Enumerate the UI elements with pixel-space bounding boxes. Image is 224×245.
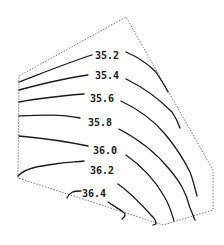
contour-label: 36.2 [90, 165, 114, 176]
domain-boundary [18, 17, 213, 225]
contour-36-4: 36.4 [67, 188, 125, 219]
contour-label: 35.4 [95, 70, 119, 81]
contour-label: 35.8 [88, 117, 112, 128]
contour-label: 36.4 [82, 188, 106, 199]
contour-35-2: 35.2 [19, 50, 168, 92]
contour-plot: 35.2 35.4 35.6 35.8 36.0 36.2 36.4 [0, 0, 224, 245]
contour-36-0: 36.0 [19, 136, 174, 221]
contour-label: 35.6 [90, 93, 114, 104]
contour-label: 36.0 [93, 145, 117, 156]
contour-label: 35.2 [95, 50, 119, 61]
